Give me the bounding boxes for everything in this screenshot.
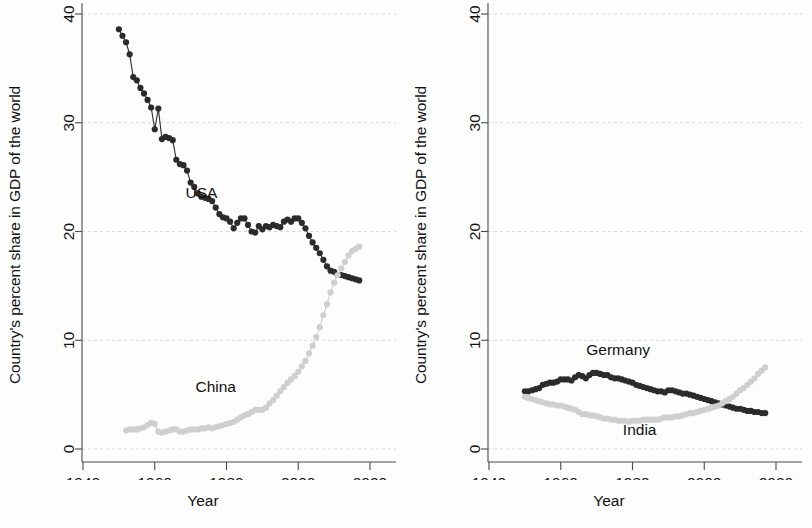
y-tick-label-10: 10 xyxy=(466,331,483,349)
x-tick-label-1980: 1980 xyxy=(209,474,244,480)
series-line-india xyxy=(525,367,765,421)
plot-area-germany-india: 01020304019401960198020002020GermanyIndi… xyxy=(406,0,812,480)
y-tick-label-0: 0 xyxy=(60,444,77,453)
gdp-share-figure: Country's percent share in GDP of the wo… xyxy=(0,0,812,528)
series-markers-germany xyxy=(522,370,769,416)
x-tick-label-1980: 1980 xyxy=(615,474,650,480)
y-tick-label-20: 20 xyxy=(60,223,77,241)
plot-area-usa-china: 01020304019401960198020002020USAChina xyxy=(0,0,406,480)
series-label-usa: USA xyxy=(185,184,218,201)
x-tick-label-2020: 2020 xyxy=(759,474,794,480)
x-tick-label-2020: 2020 xyxy=(353,474,388,480)
panel-usa-china: Country's percent share in GDP of the wo… xyxy=(0,0,406,528)
y-tick-label-40: 40 xyxy=(466,5,483,23)
y-tick-label-0: 0 xyxy=(466,444,483,453)
series-label-china: China xyxy=(195,378,236,395)
panel-germany-india: Country's percent share in GDP of the wo… xyxy=(406,0,812,528)
y-tick-label-30: 30 xyxy=(466,114,483,132)
series-line-usa xyxy=(119,29,359,280)
x-tick-label-1940: 1940 xyxy=(66,474,101,480)
x-axis-label-left: Year xyxy=(0,492,406,510)
series-markers-india xyxy=(522,364,769,425)
x-tick-label-2000: 2000 xyxy=(281,474,316,480)
x-tick-label-2000: 2000 xyxy=(687,474,722,480)
series-label-germany: Germany xyxy=(586,341,650,358)
y-tick-label-20: 20 xyxy=(466,223,483,241)
series-line-china xyxy=(126,247,359,433)
y-tick-label-40: 40 xyxy=(60,5,77,23)
x-tick-label-1960: 1960 xyxy=(138,474,173,480)
series-markers-china xyxy=(123,244,362,436)
y-tick-label-10: 10 xyxy=(60,331,77,349)
x-tick-label-1960: 1960 xyxy=(544,474,579,480)
x-axis-label-right: Year xyxy=(406,492,812,510)
series-label-india: India xyxy=(623,421,657,438)
y-tick-label-30: 30 xyxy=(60,114,77,132)
series-markers-usa xyxy=(116,26,363,283)
x-tick-label-1940: 1940 xyxy=(472,474,507,480)
